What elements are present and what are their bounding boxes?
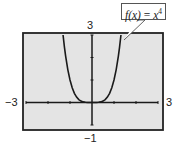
y-min-label: −1 [84, 133, 97, 144]
function-exponent: 4 [158, 7, 162, 16]
chart-figure: f(x) = x4 3 −1 −3 3 [0, 0, 179, 148]
x-max-label: 3 [166, 97, 172, 108]
function-lhs: f(x) [125, 9, 141, 21]
function-equals: = [144, 9, 151, 21]
x-min-label: −3 [5, 97, 18, 108]
y-max-label: 3 [87, 20, 93, 31]
function-label-callout: f(x) = x4 [121, 3, 166, 20]
viewing-window-frame [23, 33, 163, 130]
